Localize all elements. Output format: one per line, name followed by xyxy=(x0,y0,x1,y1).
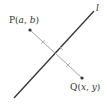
point-p xyxy=(28,28,31,31)
point-q-label: Q(x, y) xyxy=(70,83,100,92)
point-p-label: P(a, b) xyxy=(9,16,39,25)
segment-pq xyxy=(30,30,82,78)
point-q-close: ) xyxy=(97,82,101,92)
point-p-close: ) xyxy=(35,15,39,25)
symmetry-diagram: l P(a, b) Q(x, y) xyxy=(0,0,107,105)
line-l-label: l xyxy=(96,4,99,13)
point-q xyxy=(80,76,83,79)
